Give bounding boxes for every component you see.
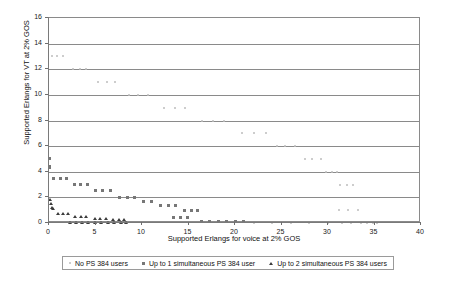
gridline bbox=[49, 95, 419, 96]
data-point-series-0 bbox=[304, 158, 306, 160]
square-marker-icon bbox=[142, 262, 145, 265]
data-point-series-0 bbox=[147, 94, 149, 96]
data-point-series-0 bbox=[62, 55, 64, 57]
data-point-series-1 bbox=[94, 189, 97, 192]
data-point-series-0 bbox=[97, 81, 99, 83]
y-tick-mark bbox=[45, 145, 48, 146]
y-tick-mark bbox=[45, 43, 48, 44]
data-point-series-2 bbox=[49, 202, 53, 205]
legend-item: No PS 384 users bbox=[69, 260, 128, 267]
data-point-series-2 bbox=[93, 217, 97, 220]
legend-label: Up to 2 simultaneous PS 384 users bbox=[277, 260, 387, 267]
data-point-series-0 bbox=[311, 158, 313, 160]
data-point-series-1 bbox=[150, 200, 153, 203]
data-point-series-1 bbox=[118, 196, 121, 199]
y-tick-mark bbox=[45, 196, 48, 197]
data-point-series-1 bbox=[190, 209, 193, 212]
data-point-series-0 bbox=[174, 107, 176, 109]
data-point-series-0 bbox=[223, 120, 225, 122]
x-tick-mark bbox=[234, 222, 235, 225]
scatter-chart: 0246810121416 0510152025303540 Supported… bbox=[0, 0, 458, 281]
data-point-series-0 bbox=[114, 81, 116, 83]
data-point-series-2 bbox=[56, 212, 60, 215]
data-point-series-0 bbox=[276, 145, 278, 147]
data-point-series-1 bbox=[172, 216, 175, 219]
data-point-series-1 bbox=[73, 183, 76, 186]
gridline bbox=[49, 197, 419, 198]
data-point-series-0 bbox=[51, 55, 53, 57]
x-tick-mark bbox=[327, 222, 328, 225]
data-point-series-1 bbox=[183, 209, 186, 212]
data-point-series-1 bbox=[133, 196, 136, 199]
data-point-series-1 bbox=[167, 204, 170, 207]
data-point-series-1 bbox=[79, 183, 82, 186]
gridline bbox=[49, 44, 419, 45]
data-point-series-1 bbox=[196, 209, 199, 212]
y-tick-mark bbox=[45, 120, 48, 121]
plot-area bbox=[48, 17, 420, 222]
dot-marker-icon bbox=[69, 262, 71, 264]
data-point-series-1 bbox=[142, 200, 145, 203]
gridline bbox=[49, 121, 419, 122]
data-point-series-0 bbox=[106, 81, 108, 83]
x-tick-mark bbox=[188, 222, 189, 225]
data-point-series-1 bbox=[65, 177, 68, 180]
data-point-series-0 bbox=[347, 209, 349, 211]
y-tick-label: 0 bbox=[20, 218, 42, 226]
x-tick-mark bbox=[374, 222, 375, 225]
legend-label: No PS 384 users bbox=[75, 260, 128, 267]
y-tick-label: 4 bbox=[20, 167, 42, 175]
x-tick-mark bbox=[420, 222, 421, 225]
x-tick-mark bbox=[48, 222, 49, 225]
data-point-series-1 bbox=[179, 216, 182, 219]
legend-item: Up to 2 simultaneous PS 384 users bbox=[269, 260, 387, 267]
data-point-series-1 bbox=[159, 204, 162, 207]
data-point-series-2 bbox=[73, 215, 77, 218]
data-point-series-0 bbox=[338, 209, 340, 211]
data-point-series-2 bbox=[79, 215, 83, 218]
data-point-series-1 bbox=[186, 216, 189, 219]
data-point-series-1 bbox=[126, 196, 129, 199]
chart-legend: No PS 384 usersUp to 1 simultaneous PS 3… bbox=[62, 256, 394, 270]
data-point-series-0 bbox=[346, 184, 348, 186]
data-point-series-0 bbox=[128, 94, 130, 96]
data-point-series-0 bbox=[265, 132, 267, 134]
data-point-series-0 bbox=[357, 209, 359, 211]
data-point-series-2 bbox=[104, 217, 108, 220]
x-tick-mark bbox=[281, 222, 282, 225]
data-point-series-1 bbox=[101, 189, 104, 192]
y-tick-mark bbox=[45, 94, 48, 95]
triangle-marker-icon bbox=[269, 262, 273, 265]
gridline bbox=[49, 146, 419, 147]
data-point-series-2 bbox=[61, 212, 65, 215]
data-point-series-0 bbox=[163, 107, 165, 109]
y-axis-label: Supported Erlangs for VT at 2% GOS bbox=[22, 3, 31, 163]
data-point-series-2 bbox=[98, 217, 102, 220]
data-point-series-1 bbox=[52, 177, 55, 180]
data-point-series-0 bbox=[331, 171, 333, 173]
data-point-series-0 bbox=[253, 132, 255, 134]
x-axis-label: Supported Erlangs for voice at 2% GOS bbox=[48, 234, 420, 243]
y-tick-mark bbox=[45, 17, 48, 18]
data-point-series-0 bbox=[241, 132, 243, 134]
data-point-series-1 bbox=[59, 177, 62, 180]
legend-item: Up to 1 simultaneous PS 384 user bbox=[142, 260, 255, 267]
data-point-series-0 bbox=[184, 107, 186, 109]
data-point-series-0 bbox=[339, 184, 341, 186]
data-point-series-0 bbox=[325, 171, 327, 173]
legend-label: Up to 1 simultaneous PS 384 user bbox=[149, 260, 255, 267]
data-point-series-0 bbox=[320, 158, 322, 160]
x-tick-mark bbox=[141, 222, 142, 225]
data-point-series-0 bbox=[212, 120, 214, 122]
data-point-series-2 bbox=[51, 207, 55, 210]
data-point-series-0 bbox=[352, 184, 354, 186]
data-point-series-2 bbox=[66, 212, 70, 215]
gridline bbox=[49, 172, 419, 173]
data-point-series-0 bbox=[201, 120, 203, 122]
data-point-series-0 bbox=[56, 55, 58, 57]
data-point-series-1 bbox=[109, 189, 112, 192]
data-point-series-1 bbox=[174, 204, 177, 207]
y-axis-line bbox=[48, 17, 49, 222]
y-tick-label: 2 bbox=[20, 192, 42, 200]
y-tick-mark bbox=[45, 171, 48, 172]
